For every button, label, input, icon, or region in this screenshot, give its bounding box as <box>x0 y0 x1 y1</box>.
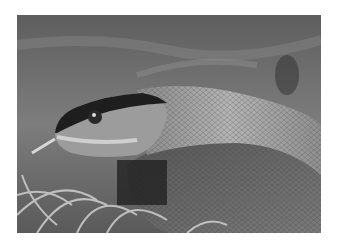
snake-photo <box>17 15 321 233</box>
snake-photo-illustration <box>17 15 321 233</box>
